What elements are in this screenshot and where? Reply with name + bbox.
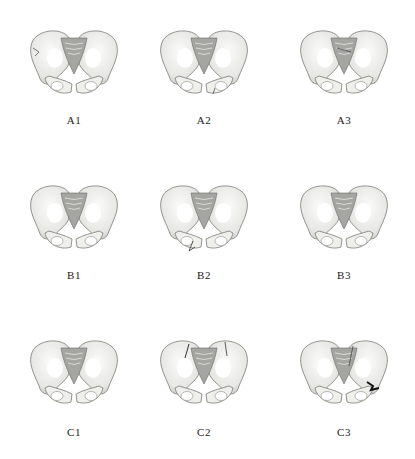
panel-b2: B2 [135,155,273,305]
pelvis-illustration [25,22,123,102]
pelvis-illustration [155,332,253,412]
panel-label: B3 [275,269,413,281]
panel-label: A3 [275,114,413,126]
panel-c1: C1 [5,310,143,459]
panel-b3: B3 [275,155,413,305]
panel-label: B2 [135,269,273,281]
panel-label: C3 [275,426,413,438]
panel-a3: A3 [275,0,413,150]
panel-a2: A2 [135,0,273,150]
panel-b1: B1 [5,155,143,305]
panel-label: C2 [135,426,273,438]
panel-label: B1 [5,269,143,281]
pelvis-illustration [295,22,393,102]
panel-a1: A1 [5,0,143,150]
pelvis-illustration [155,177,253,257]
pelvis-illustration [295,177,393,257]
panel-label: C1 [5,426,143,438]
panel-label: A2 [135,114,273,126]
pelvis-illustration [25,332,123,412]
panel-c2: C2 [135,310,273,459]
panel-label: A1 [5,114,143,126]
panel-c3: C3 [275,310,413,459]
pelvis-illustration [295,332,393,412]
pelvis-illustration [155,22,253,102]
pelvis-illustration [25,177,123,257]
